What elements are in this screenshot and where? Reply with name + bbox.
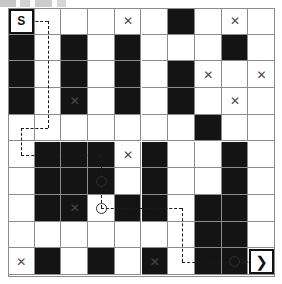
free-cell[interactable] <box>115 142 142 169</box>
free-cell[interactable] <box>195 8 222 35</box>
diagram-canvas: ✕✕✕✕✕✕✕✕✕✕S❯ <box>0 0 282 284</box>
free-cell[interactable] <box>61 115 88 142</box>
free-cell[interactable] <box>61 248 88 275</box>
obstacle-cell[interactable] <box>35 168 62 195</box>
obstacle-cell[interactable] <box>8 61 35 88</box>
obstacle-cell[interactable] <box>222 168 249 195</box>
free-cell[interactable] <box>142 88 169 115</box>
free-cell[interactable] <box>142 8 169 35</box>
free-cell[interactable] <box>248 168 275 195</box>
free-cell[interactable] <box>142 222 169 249</box>
path-waypoint[interactable] <box>96 176 107 187</box>
free-cell[interactable] <box>88 222 115 249</box>
free-cell[interactable] <box>168 142 195 169</box>
path-waypoint[interactable] <box>96 203 107 214</box>
free-cell[interactable] <box>248 8 275 35</box>
obstacle-cell[interactable] <box>195 115 222 142</box>
obstacle-cell[interactable] <box>168 8 195 35</box>
free-cell[interactable] <box>248 35 275 62</box>
free-cell[interactable] <box>222 115 249 142</box>
scan-artifact-strip <box>0 0 282 7</box>
free-cell[interactable] <box>248 61 275 88</box>
free-cell[interactable] <box>115 8 142 35</box>
obstacle-cell[interactable] <box>222 222 249 249</box>
free-cell[interactable] <box>88 88 115 115</box>
obstacle-cell[interactable] <box>222 35 249 62</box>
free-cell[interactable] <box>35 222 62 249</box>
free-cell[interactable] <box>168 115 195 142</box>
free-cell[interactable] <box>142 35 169 62</box>
navigation-grid[interactable]: ✕✕✕✕✕✕✕✕✕✕S❯ <box>8 8 275 277</box>
planned-path-segment <box>101 208 181 209</box>
free-cell[interactable] <box>115 115 142 142</box>
free-cell[interactable] <box>248 142 275 169</box>
free-cell[interactable] <box>222 8 249 35</box>
obstacle-cell[interactable] <box>222 195 249 222</box>
obstacle-cell[interactable] <box>168 61 195 88</box>
obstacle-cell[interactable] <box>142 248 169 275</box>
obstacle-cell[interactable] <box>8 88 35 115</box>
free-cell[interactable] <box>195 142 222 169</box>
obstacle-cell[interactable] <box>61 195 88 222</box>
obstacle-cell[interactable] <box>61 61 88 88</box>
goal-cell[interactable]: ❯ <box>249 249 274 274</box>
free-cell[interactable] <box>61 8 88 35</box>
planned-path-segment <box>21 155 101 156</box>
planned-path-segment <box>21 128 48 129</box>
start-cell[interactable]: S <box>9 9 34 34</box>
obstacle-cell[interactable] <box>168 88 195 115</box>
obstacle-cell[interactable] <box>61 35 88 62</box>
free-cell[interactable] <box>115 222 142 249</box>
obstacle-cell[interactable] <box>115 88 142 115</box>
planned-path-segment <box>21 128 22 155</box>
obstacle-cell[interactable] <box>115 61 142 88</box>
planned-path-segment <box>182 208 183 261</box>
obstacle-cell[interactable] <box>61 88 88 115</box>
free-cell[interactable] <box>88 61 115 88</box>
free-cell[interactable] <box>115 168 142 195</box>
free-cell[interactable] <box>248 88 275 115</box>
free-cell[interactable] <box>88 115 115 142</box>
free-cell[interactable] <box>222 61 249 88</box>
free-cell[interactable] <box>142 115 169 142</box>
free-cell[interactable] <box>195 61 222 88</box>
planned-path-segment <box>48 21 49 128</box>
free-cell[interactable] <box>88 35 115 62</box>
obstacle-cell[interactable] <box>35 195 62 222</box>
free-cell[interactable] <box>61 222 88 249</box>
goal-arrow-icon: ❯ <box>255 254 268 269</box>
obstacle-cell[interactable] <box>195 195 222 222</box>
free-cell[interactable] <box>195 88 222 115</box>
free-cell[interactable] <box>195 35 222 62</box>
obstacle-cell[interactable] <box>142 142 169 169</box>
free-cell[interactable] <box>142 61 169 88</box>
path-arrowhead-icon <box>242 258 248 266</box>
obstacle-cell[interactable] <box>35 248 62 275</box>
free-cell[interactable] <box>8 195 35 222</box>
free-cell[interactable] <box>168 168 195 195</box>
free-cell[interactable] <box>88 8 115 35</box>
obstacle-cell[interactable] <box>115 35 142 62</box>
free-cell[interactable] <box>222 88 249 115</box>
obstacle-cell[interactable] <box>61 168 88 195</box>
obstacle-cell[interactable] <box>142 168 169 195</box>
obstacle-cell[interactable] <box>195 222 222 249</box>
free-cell[interactable] <box>248 222 275 249</box>
free-cell[interactable] <box>168 35 195 62</box>
free-cell[interactable] <box>8 168 35 195</box>
obstacle-cell[interactable] <box>88 248 115 275</box>
obstacle-cell[interactable] <box>8 35 35 62</box>
free-cell[interactable] <box>248 195 275 222</box>
free-cell[interactable] <box>8 248 35 275</box>
free-cell[interactable] <box>8 222 35 249</box>
free-cell[interactable] <box>115 248 142 275</box>
free-cell[interactable] <box>195 168 222 195</box>
obstacle-cell[interactable] <box>222 142 249 169</box>
free-cell[interactable] <box>248 115 275 142</box>
